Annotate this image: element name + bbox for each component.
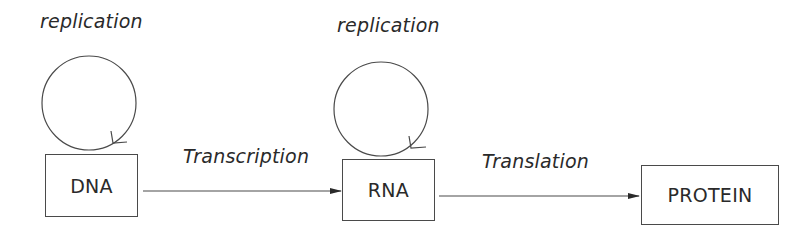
dna-replication-circle	[42, 56, 136, 150]
rna-replication-loop	[334, 62, 428, 156]
dna-box-label: DNA	[70, 175, 113, 197]
rna-box: RNA	[342, 159, 435, 221]
translation-label: Translation	[482, 150, 589, 172]
dna-replication-label: replication	[40, 10, 143, 32]
dna-replication-loop	[42, 56, 136, 150]
protein-box: PROTEIN	[641, 165, 779, 225]
rna-box-label: RNA	[368, 179, 409, 201]
rna-replication-label: replication	[337, 14, 440, 36]
transcription-label: Transcription	[183, 145, 309, 167]
protein-box-label: PROTEIN	[667, 184, 752, 206]
dna-box: DNA	[45, 154, 138, 217]
rna-replication-circle	[334, 62, 428, 156]
